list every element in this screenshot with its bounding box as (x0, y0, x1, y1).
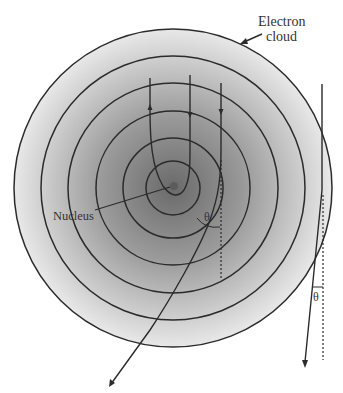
nucleus (170, 182, 178, 190)
electron-cloud-label-line2: cloud (266, 29, 297, 44)
angle-label-outer: θ (313, 290, 319, 304)
nucleus-label: Nucleus (53, 209, 94, 223)
electron-cloud-label-line1: Electron (258, 14, 305, 29)
electron-cloud-pointer (240, 34, 262, 44)
scattering-diagram: θ θ Nucleus Electron cloud (0, 0, 343, 393)
angle-label-inner: θ (204, 210, 210, 224)
